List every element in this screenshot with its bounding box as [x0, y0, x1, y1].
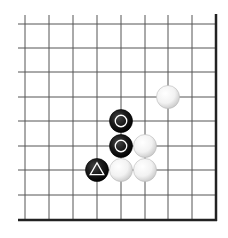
go-board [0, 0, 228, 238]
stone-body [110, 159, 133, 182]
white-stone [110, 159, 133, 182]
white-stone [134, 159, 157, 182]
white-stone [157, 86, 180, 109]
stone-body [110, 135, 133, 158]
black-stone [110, 135, 133, 158]
black-stone [110, 110, 133, 133]
white-stone [134, 135, 157, 158]
stone-body [110, 110, 133, 133]
black-stone [86, 159, 109, 182]
stone-body [134, 135, 157, 158]
stone-body [157, 86, 180, 109]
stone-body [134, 159, 157, 182]
stones-layer [86, 86, 180, 182]
